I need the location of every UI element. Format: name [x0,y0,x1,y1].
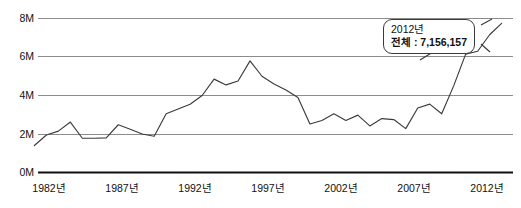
y-tick-6M: 6M [4,51,34,62]
x-tick-1992: 1992년 [165,182,225,194]
y-tick-2M: 2M [4,129,34,140]
callout-total-label: 전체 : 7,156,157 [391,36,467,49]
x-tick-1982: 1982년 [19,182,79,194]
y-tick-8M: 8M [4,13,34,24]
callout-year-label: 2012년 [391,23,467,36]
x-tick-2007: 2007년 [384,182,444,194]
y-tick-4M: 4M [4,90,34,101]
x-tick-1987: 1987년 [92,182,152,194]
x-tick-2012: 2012년 [457,182,517,194]
line-chart: 8M 6M 4M 2M 0M 1982년 1987년 1992년 1997년 2… [0,0,521,208]
y-tick-0M: 0M [4,167,34,178]
y-axis-tick-dashes [38,19,44,135]
x-tick-1997: 1997년 [238,182,298,194]
annotation-callout-2012: 2012년 전체 : 7,156,157 [383,19,475,54]
x-tick-2002: 2002년 [311,182,371,194]
